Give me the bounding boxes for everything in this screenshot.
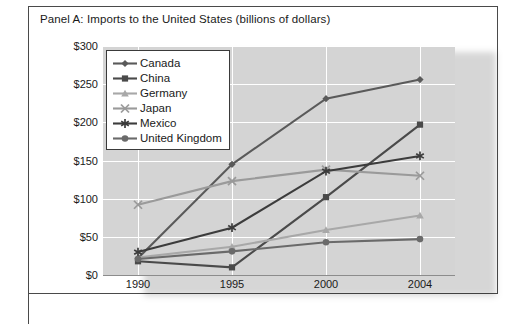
chart-legend: CanadaChinaGermanyJapanMexicoUnited King… [106,50,230,150]
y-axis-tick-label: $250 [38,78,98,90]
data-point-circle [323,239,330,246]
legend-item-china[interactable]: China [112,70,222,85]
legend-item-label: Canada [138,57,180,69]
panel-title: Panel A: Imports to the United States (b… [40,13,330,25]
diamond-marker-icon [112,56,138,69]
y-axis-tick-label: $300 [38,40,98,52]
legend-item-label: Mexico [138,117,176,129]
x-axis-tick-label: 2004 [408,278,432,290]
legend-item-label: China [138,72,170,84]
square-marker-icon [112,71,138,84]
y-axis-tick-label: $200 [38,116,98,128]
data-point-square [229,264,235,270]
screenshot-root: Panel A: Imports to the United States (b… [0,0,521,333]
y-axis-tick-label: $50 [38,231,98,243]
data-point-circle [122,135,129,142]
legend-item-germany[interactable]: Germany [112,85,222,100]
y-axis-tick-label: $100 [38,193,98,205]
data-point-square [417,122,423,128]
y-axis-tick-label: $150 [38,155,98,167]
series-united-kingdom [135,236,424,262]
series-line [138,215,420,257]
x-axis-line [103,275,455,276]
data-point-diamond [121,60,128,67]
x-marker-icon [112,101,138,114]
x-axis-tick-label: 2000 [314,278,338,290]
data-point-square [122,75,128,81]
data-point-circle [417,236,424,243]
data-point-square [323,194,329,200]
y-axis-tick-label: $0 [38,269,98,281]
y-axis-ticks: $0$50$100$150$200$250$300 [38,46,98,275]
legend-item-mexico[interactable]: Mexico [112,115,222,130]
series-japan [134,166,424,209]
legend-item-united-kingdom[interactable]: United Kingdom [112,130,222,145]
line-chart: Imports to the US (billions) $0$50$100$1… [38,38,462,286]
data-point-circle [229,248,236,255]
data-point-diamond [416,76,423,83]
asterisk-marker-icon [112,116,138,129]
legend-item-label: Germany [138,87,187,99]
triangle-marker-icon [112,86,138,99]
circle-marker-icon [112,131,138,144]
x-axis-tick-label: 1990 [126,278,150,290]
legend-item-label: Japan [138,102,171,114]
legend-item-canada[interactable]: Canada [112,55,222,70]
x-axis-tick-label: 1995 [220,278,244,290]
legend-item-label: United Kingdom [138,132,222,144]
legend-item-japan[interactable]: Japan [112,100,222,115]
data-point-circle [135,256,142,263]
